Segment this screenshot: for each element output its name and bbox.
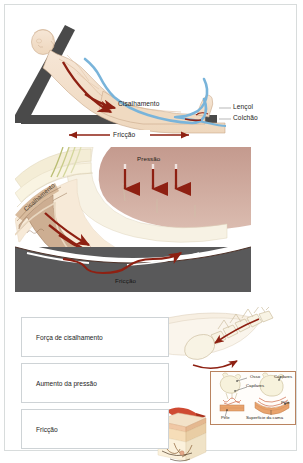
row-shear-force: Força de cisalhamento	[21, 317, 169, 357]
label-bone: Osso	[250, 374, 260, 379]
label-bed-surface: Superfície da cama	[246, 415, 283, 420]
label-shear-panel1: Cisalhamento	[118, 100, 160, 107]
row-friction-label: Fricção	[36, 426, 58, 433]
panel-three-forces: Osso Capilares Capilares Pele Pele Super…	[7, 305, 296, 455]
panel-patient-in-bed: Cisalhamento Lençol Colchão Fricção	[7, 11, 296, 141]
patient-in-bed-illustration	[7, 11, 296, 141]
label-friction-panel2: Fricção	[115, 277, 136, 284]
inset-capillaries-diagram: Osso Capilares Capilares Pele Pele Super…	[210, 371, 296, 425]
label-sheet: Lençol	[233, 103, 253, 110]
sacrum-shear-illustration	[155, 307, 281, 369]
row-friction: Fricção	[21, 409, 169, 449]
row-increased-pressure-label: Aumento da pressão	[36, 380, 97, 387]
panel-tissue-cross-section: Pressão Cisalhamento Fricção	[15, 147, 251, 292]
label-friction-panel1: Fricção	[113, 131, 135, 138]
label-skin-left: Pele	[221, 415, 230, 420]
label-capillaries-right: Capilares	[274, 374, 292, 379]
label-skin-right: Pele	[281, 400, 290, 405]
label-capillaries-left: Capilares	[246, 383, 264, 388]
tissue-cross-section-illustration	[15, 147, 251, 292]
row-shear-force-label: Força de cisalhamento	[36, 334, 103, 341]
label-pressure: Pressão	[137, 155, 160, 162]
row-increased-pressure: Aumento da pressão	[21, 363, 169, 403]
label-mattress: Colchão	[233, 114, 258, 121]
page-frame: Cisalhamento Lençol Colchão Fricção	[4, 4, 297, 451]
